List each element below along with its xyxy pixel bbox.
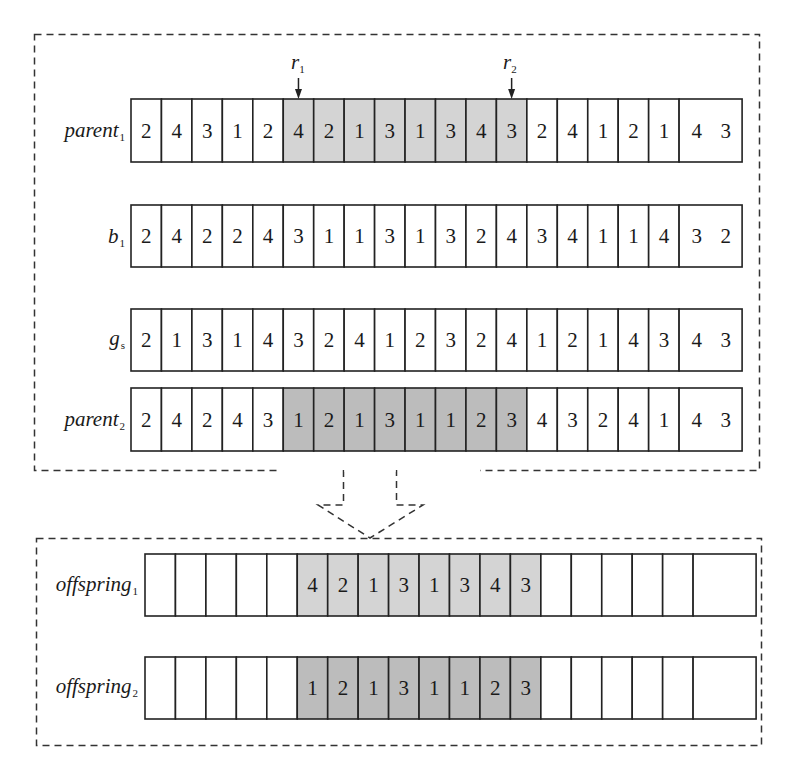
gene-value: 1: [368, 573, 379, 597]
row-label-offspring2: offspring2: [56, 676, 138, 699]
gene-cell: [145, 554, 175, 616]
gene-value: 2: [476, 408, 487, 432]
gene-value: 1: [659, 119, 670, 143]
gene-value: 3: [399, 573, 410, 597]
gene-cell: [206, 657, 236, 719]
down-arrow-icon: [280, 468, 480, 538]
gene-value: 3: [520, 676, 531, 700]
gene-cell: [541, 554, 571, 616]
crossover-diagram: 2431242131343241214324224311313243411432…: [0, 0, 797, 783]
chromosome-rows: 2431242131343241214324224311313243411432…: [131, 99, 756, 719]
gene-value: 4: [171, 408, 182, 432]
gene-cell: [663, 657, 693, 719]
gene-cell: [571, 657, 601, 719]
gene-cell: [632, 554, 662, 616]
gene-value: 2: [490, 676, 501, 700]
chromosome-offspring2: 12131123: [145, 657, 756, 719]
gene-value: 4: [659, 224, 670, 248]
gene-value: 4: [232, 408, 243, 432]
marker-label-r2: r2: [503, 52, 517, 75]
gene-value: 3: [385, 224, 396, 248]
gene-value: 4: [307, 573, 318, 597]
gene-cell: [679, 99, 742, 162]
gene-value: 2: [476, 328, 487, 352]
gene-value: 4: [691, 328, 702, 352]
gene-value: 3: [445, 119, 456, 143]
gene-value: 3: [720, 408, 731, 432]
gene-value: 4: [628, 328, 639, 352]
gene-value: 2: [141, 119, 152, 143]
gene-value: 4: [171, 224, 182, 248]
gene-value: 3: [263, 408, 274, 432]
gene-value: 4: [628, 408, 639, 432]
gene-value: 3: [293, 224, 304, 248]
gene-value: 1: [307, 676, 318, 700]
gene-value: 3: [691, 224, 702, 248]
gene-cell: [206, 554, 236, 616]
gene-cell: [175, 554, 205, 616]
gene-value: 4: [263, 328, 274, 352]
gene-value: 3: [459, 573, 470, 597]
gene-value: 1: [415, 408, 426, 432]
gene-value: 3: [506, 408, 517, 432]
gene-value: 1: [598, 328, 609, 352]
gene-value: 3: [720, 328, 731, 352]
gene-value: 1: [354, 224, 365, 248]
gene-value: 1: [415, 119, 426, 143]
gene-value: 3: [445, 328, 456, 352]
gene-value: 1: [354, 119, 365, 143]
gene-cell: [679, 309, 742, 371]
gene-cell: [679, 388, 742, 451]
gene-value: 4: [263, 224, 274, 248]
gene-value: 3: [202, 119, 213, 143]
gene-value: 3: [537, 224, 548, 248]
gene-value: 3: [520, 573, 531, 597]
gene-value: 3: [506, 119, 517, 143]
chromosome-parent1: 24312421313432412143: [131, 99, 742, 162]
gene-cell: [267, 554, 297, 616]
gene-value: 3: [445, 224, 456, 248]
gene-value: 2: [338, 573, 349, 597]
gene-value: 2: [324, 119, 335, 143]
gene-value: 1: [537, 328, 548, 352]
gene-value: 2: [141, 408, 152, 432]
chromosome-b1: 24224311313243411432: [131, 205, 742, 267]
gene-value: 3: [385, 408, 396, 432]
gene-value: 4: [293, 119, 304, 143]
gene-value: 2: [338, 676, 349, 700]
gene-value: 1: [628, 224, 639, 248]
gene-value: 4: [691, 119, 702, 143]
marker-label-r1: r1: [291, 52, 305, 75]
diagram-canvas: 2431242131343241214324224311313243411432…: [0, 0, 797, 783]
gene-value: 1: [598, 119, 609, 143]
gene-value: 4: [567, 119, 578, 143]
gene-value: 1: [324, 224, 335, 248]
row-label-b1: b1: [108, 226, 125, 249]
gene-cell: [175, 657, 205, 719]
chromosome-parent2: 24243121311234324143: [131, 388, 742, 451]
gene-cell: [541, 657, 571, 719]
gene-cell: [632, 657, 662, 719]
gene-value: 2: [202, 224, 213, 248]
arrow-down-icon: [295, 78, 302, 99]
gene-value: 1: [354, 408, 365, 432]
gene-value: 1: [429, 676, 440, 700]
gene-cell: [236, 657, 266, 719]
row-label-parent2: parent2: [64, 409, 125, 432]
cut-point-markers: [295, 78, 515, 99]
gene-cell: [602, 554, 632, 616]
gene-cell: [571, 554, 601, 616]
gene-cell: [663, 554, 693, 616]
gene-value: 3: [385, 119, 396, 143]
gene-value: 2: [598, 408, 609, 432]
gene-value: 4: [354, 328, 365, 352]
gene-value: 4: [506, 224, 517, 248]
gene-value: 2: [567, 328, 578, 352]
gene-value: 1: [415, 224, 426, 248]
gene-value: 2: [324, 408, 335, 432]
gene-value: 2: [720, 224, 731, 248]
gene-value: 4: [691, 408, 702, 432]
gene-value: 4: [171, 119, 182, 143]
row-label-gs: gs: [109, 328, 125, 351]
gene-value: 4: [567, 224, 578, 248]
